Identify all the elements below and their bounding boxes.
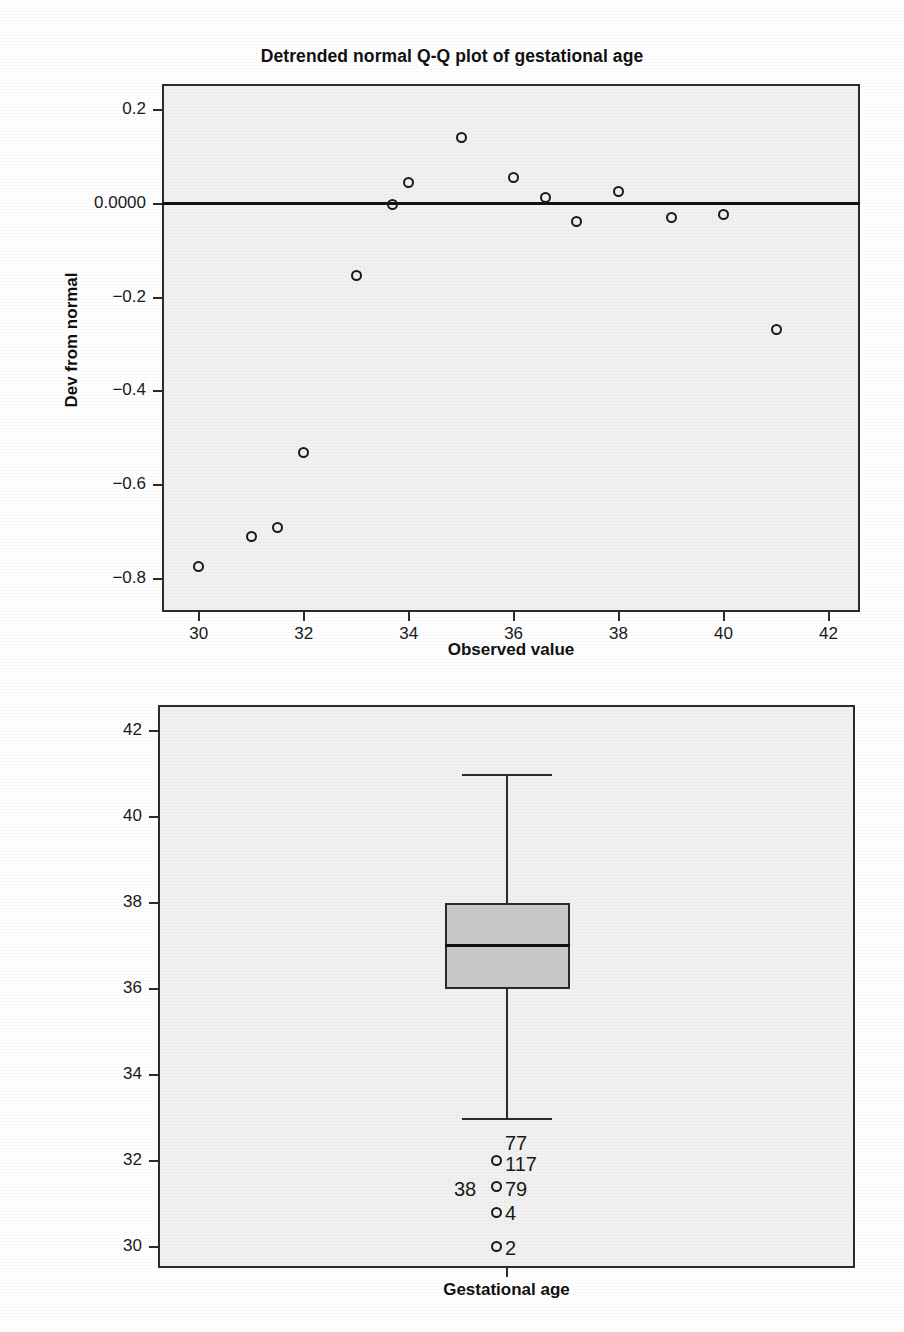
qq-data-point	[613, 186, 624, 197]
boxplot-outlier-point	[491, 1241, 502, 1252]
boxplot-y-tick-mark	[149, 730, 158, 732]
boxplot-outlier-label: 4	[505, 1203, 516, 1223]
boxplot-y-tick-label: 30	[38, 1236, 142, 1256]
boxplot-y-tick-label: 34	[38, 1064, 142, 1084]
qq-x-axis-title: Observed value	[162, 640, 860, 660]
boxplot-y-tick-mark	[149, 988, 158, 990]
boxplot-y-tick-label: 42	[38, 720, 142, 740]
qq-y-tick-label: −0.4	[12, 380, 146, 400]
boxplot-y-tick-mark	[149, 1074, 158, 1076]
boxplot-outlier-point	[491, 1181, 502, 1192]
boxplot-x-axis-title: Gestational age	[158, 1280, 855, 1300]
qq-x-tick-mark	[513, 612, 515, 621]
boxplot-outlier-point	[491, 1207, 502, 1218]
qq-data-point	[771, 324, 782, 335]
qq-x-tick-mark	[618, 612, 620, 621]
boxplot-median-line	[445, 944, 570, 947]
qq-y-tick-label: −0.6	[12, 474, 146, 494]
boxplot-figure: 42403836343230 77117387942 Gestational a…	[0, 690, 904, 1332]
qq-plot-figure: Detrended normal Q-Q plot of gestational…	[0, 0, 904, 690]
qq-data-point	[403, 177, 414, 188]
boxplot-category-tick	[506, 1268, 508, 1277]
qq-x-tick-mark	[828, 612, 830, 621]
boxplot-y-tick-mark	[149, 1160, 158, 1162]
boxplot-y-tick-label: 40	[38, 806, 142, 826]
qq-y-tick-mark	[153, 297, 162, 299]
boxplot-y-tick-mark	[149, 902, 158, 904]
boxplot-outlier-label: 2	[505, 1238, 516, 1258]
qq-y-tick-label: −0.2	[12, 287, 146, 307]
boxplot-y-tick-label: 36	[38, 978, 142, 998]
qq-data-point	[246, 531, 257, 542]
boxplot-upper-whisker-cap	[462, 774, 552, 776]
boxplot-outlier-label: 79	[505, 1179, 527, 1199]
boxplot-outlier-point	[491, 1155, 502, 1166]
qq-data-point	[540, 192, 551, 203]
boxplot-y-tick-label: 38	[38, 892, 142, 912]
qq-x-tick-mark	[408, 612, 410, 621]
qq-zero-reference-line	[162, 202, 860, 205]
qq-y-tick-mark	[153, 578, 162, 580]
qq-data-point	[351, 270, 362, 281]
qq-y-tick-mark	[153, 484, 162, 486]
boxplot-y-tick-label: 32	[38, 1150, 142, 1170]
qq-data-point	[718, 209, 729, 220]
qq-plot-area	[162, 84, 860, 612]
qq-y-tick-mark	[153, 203, 162, 205]
boxplot-upper-whisker	[506, 774, 508, 903]
qq-plot-title: Detrended normal Q-Q plot of gestational…	[0, 46, 904, 67]
qq-y-tick-mark	[153, 109, 162, 111]
qq-x-tick-mark	[723, 612, 725, 621]
boxplot-lower-whisker	[506, 989, 508, 1118]
qq-y-tick-label: 0.2	[12, 99, 146, 119]
boxplot-outlier-label: 38	[454, 1179, 476, 1199]
boxplot-y-tick-mark	[149, 816, 158, 818]
qq-y-axis-title: Dev from normal	[62, 230, 82, 450]
qq-y-tick-label: 0.0000	[12, 193, 146, 213]
qq-data-point	[272, 522, 283, 533]
qq-y-tick-label: −0.8	[12, 568, 146, 588]
qq-x-tick-mark	[303, 612, 305, 621]
boxplot-outlier-label: 117	[505, 1154, 537, 1174]
qq-data-point	[508, 172, 519, 183]
qq-x-tick-mark	[198, 612, 200, 621]
boxplot-y-tick-mark	[149, 1246, 158, 1248]
boxplot-lower-whisker-cap	[462, 1118, 552, 1120]
qq-y-tick-mark	[153, 390, 162, 392]
boxplot-outlier-label: 77	[505, 1133, 527, 1153]
qq-data-point	[666, 212, 677, 223]
